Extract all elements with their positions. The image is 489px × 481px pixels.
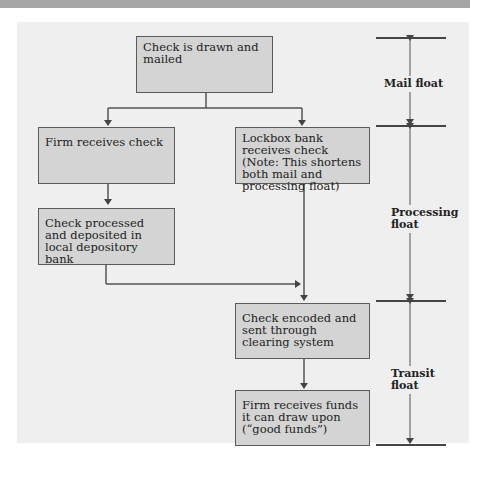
box-firm-receives-check: Firm receives check bbox=[38, 127, 175, 184]
box-lockbox-bank: Lockbox bank receives check (Note: This … bbox=[235, 127, 370, 184]
box-check-processed: Check processed and deposited in local d… bbox=[38, 208, 175, 265]
box-check-encoded: Check encoded and sent through clearing … bbox=[235, 303, 370, 359]
box-check-drawn: Check is drawn and mailed bbox=[136, 36, 273, 93]
label-transit-float: Transit float bbox=[391, 366, 441, 394]
box-good-funds: Firm receives funds it can draw upon (“g… bbox=[235, 390, 370, 446]
label-processing-float: Processing float bbox=[391, 205, 451, 233]
label-mail-float: Mail float bbox=[384, 76, 443, 92]
